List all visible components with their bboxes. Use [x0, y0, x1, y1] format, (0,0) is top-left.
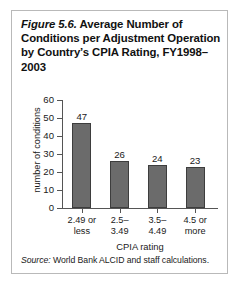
x-axis-label-line: less [63, 226, 101, 237]
bar-chart: number of conditions 0102030405060 47262… [12, 89, 227, 241]
y-axis-tick: 60 [57, 100, 62, 101]
y-axis-tick-label: 30 [43, 148, 54, 159]
bar: 24 [148, 165, 167, 208]
x-axis-label: 4.5 ormore [176, 215, 214, 237]
bar-value-label: 24 [152, 153, 163, 164]
y-axis-tick-label: 60 [43, 94, 54, 105]
x-axis-tick [82, 209, 83, 213]
bar-value-label: 23 [190, 155, 201, 166]
x-axis-tick [195, 209, 196, 213]
source-note: Source: World Bank ALCID and staff calcu… [21, 255, 221, 266]
y-axis-tick: 30 [57, 154, 62, 155]
x-axis-title: CPIA rating [62, 241, 218, 252]
y-axis-tick-label: 50 [43, 112, 54, 123]
y-axis-tick-label: 40 [43, 130, 54, 141]
source-label: Source: [21, 255, 51, 265]
bar-value-label: 47 [77, 111, 88, 122]
x-axis-tick [120, 209, 121, 213]
bar: 23 [186, 167, 205, 208]
y-axis-tick: 10 [57, 190, 62, 191]
x-axis-tick [157, 209, 158, 213]
x-axis-label: 3.5–4.49 [139, 215, 177, 237]
y-axis-tick: 20 [57, 172, 62, 173]
x-axis-label-line: 2.49 or [63, 215, 101, 226]
source-text: World Bank ALCID and staff calculations. [51, 255, 209, 265]
y-axis-title: number of conditions [32, 104, 42, 196]
x-axis-label-line: 2.5– [101, 215, 139, 226]
bar: 47 [72, 123, 91, 208]
y-axis-tick: 40 [57, 136, 62, 137]
y-axis-tick-label: 20 [43, 166, 54, 177]
y-axis-tick-label: 0 [49, 202, 54, 213]
x-axis-label-line: 4.5 or [176, 215, 214, 226]
figure-title: Figure 5.6. Average Number of Conditions… [21, 17, 223, 74]
figure-number: Figure 5.6. [21, 18, 77, 30]
plot-area: 47262423 [63, 100, 214, 208]
x-axis-label: 2.5–3.49 [101, 215, 139, 237]
y-axis-tick-label: 10 [43, 184, 54, 195]
x-axis-label-line: 4.49 [139, 226, 177, 237]
y-axis-tick: 0 [57, 208, 62, 209]
x-axis-label-line: 3.49 [101, 226, 139, 237]
figure-container: Figure 5.6. Average Number of Conditions… [11, 10, 228, 274]
bar: 26 [110, 161, 129, 208]
x-axis-label-line: 3.5– [139, 215, 177, 226]
y-axis-tick: 50 [57, 118, 62, 119]
x-axis-label-line: more [176, 226, 214, 237]
bar-value-label: 26 [114, 149, 125, 160]
x-axis-label: 2.49 orless [63, 215, 101, 237]
